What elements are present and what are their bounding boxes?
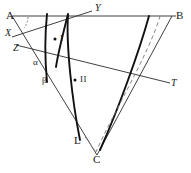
segment-bc [97, 16, 172, 155]
segment-ac [12, 16, 97, 155]
label-vertex-b: B [176, 10, 183, 21]
region-one-dot-icon [54, 38, 57, 41]
label-point-l: L [74, 135, 81, 146]
ray-xy [12, 11, 92, 37]
label-point-t: T [171, 78, 177, 88]
dashed-line-right [96, 16, 160, 152]
label-region-one: I [60, 34, 64, 43]
label-point-x: X [5, 28, 11, 38]
label-angle-alpha: α [33, 58, 38, 67]
label-vertex-a: A [6, 10, 14, 21]
dashed-line-l [85, 137, 97, 154]
geometry-figure: A B C X Y Z T L α β I II [0, 0, 191, 173]
label-vertex-c: C [93, 154, 100, 165]
region-two-dot-icon [74, 79, 77, 82]
figure-canvas [0, 0, 191, 173]
thick-curve-to-l [68, 15, 80, 140]
thick-curve-right [100, 16, 149, 150]
angle-arc-icon [24, 17, 28, 28]
thick-curve-left [45, 14, 47, 82]
label-angle-beta: β [42, 76, 47, 85]
label-point-z: Z [13, 43, 19, 53]
triangle-abc [12, 16, 176, 155]
label-point-y: Y [95, 3, 101, 13]
label-region-two: II [80, 75, 87, 84]
